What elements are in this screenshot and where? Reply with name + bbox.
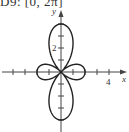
y-tick-label: 2	[52, 43, 57, 53]
x-axis-label: x	[122, 74, 126, 84]
x-tick-label: 4	[106, 77, 111, 87]
polar-plot	[0, 0, 129, 132]
y-axis-arrow-icon	[59, 10, 64, 17]
y-axis-label: y	[52, 6, 56, 16]
